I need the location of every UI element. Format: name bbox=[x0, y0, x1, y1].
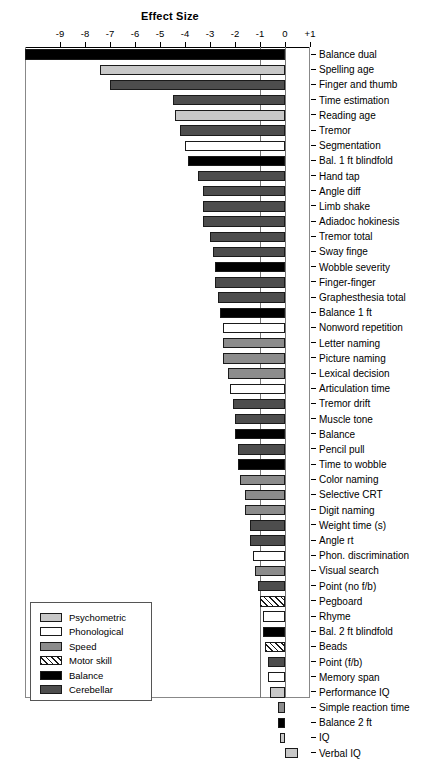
y-tick-mark bbox=[311, 145, 316, 146]
y-axis-label: Graphesthesia total bbox=[319, 290, 406, 305]
bar-bal-2-ft-blindfold bbox=[263, 627, 286, 637]
bar-row: Balance bbox=[0, 427, 431, 442]
x-tick-mark-0 bbox=[285, 42, 286, 47]
x-tick-mark--6 bbox=[135, 42, 136, 47]
bar-balance-dual bbox=[25, 49, 285, 59]
bar-hand-tap bbox=[198, 171, 286, 181]
y-axis-label: Balance 1 ft bbox=[319, 305, 372, 320]
y-tick-mark bbox=[311, 160, 316, 161]
bar-pegboard bbox=[260, 596, 285, 606]
y-axis-label: Finger-finger bbox=[319, 275, 376, 290]
bar-row: Segmentation bbox=[0, 138, 431, 153]
bar-balance-2-ft bbox=[278, 718, 286, 728]
legend-label-balance: Balance bbox=[69, 670, 103, 681]
y-tick-mark bbox=[311, 373, 316, 374]
bar-time-to-wobble bbox=[238, 459, 286, 469]
y-axis-label: Balance bbox=[319, 427, 355, 442]
legend-item-balance: Balance bbox=[40, 668, 151, 683]
y-tick-mark bbox=[311, 616, 316, 617]
bar-row: Picture naming bbox=[0, 351, 431, 366]
y-axis-label: Lexical decision bbox=[319, 366, 390, 381]
y-axis-label: Tremor bbox=[319, 123, 351, 138]
y-tick-mark bbox=[311, 266, 316, 267]
y-tick-mark bbox=[311, 707, 316, 708]
x-tick-mark--9 bbox=[60, 42, 61, 47]
y-tick-mark bbox=[311, 691, 316, 692]
bar-row: Sway finge bbox=[0, 244, 431, 259]
bar-row: Finger-finger bbox=[0, 275, 431, 290]
x-tick-mark--1 bbox=[260, 42, 261, 47]
y-axis-label: Nonword repetition bbox=[319, 320, 403, 335]
y-axis-label: Adiadoc hokinesis bbox=[319, 214, 400, 229]
bar-row: Tremor bbox=[0, 123, 431, 138]
bar-row: Balance 2 ft bbox=[0, 715, 431, 730]
y-tick-mark bbox=[311, 585, 316, 586]
x-tick-mark-+1 bbox=[310, 42, 311, 47]
bar-beads bbox=[265, 642, 285, 652]
bar-pencil-pull bbox=[238, 444, 286, 454]
y-axis-label: Digit naming bbox=[319, 503, 375, 518]
y-axis-label: Segmentation bbox=[319, 138, 381, 153]
bar-graphesthesia-total bbox=[218, 292, 286, 302]
bar-wobble-severity bbox=[215, 262, 285, 272]
bar-row: Hand tap bbox=[0, 169, 431, 184]
y-tick-mark bbox=[311, 69, 316, 70]
y-tick-mark bbox=[311, 524, 316, 525]
bar-sway-finge bbox=[213, 247, 286, 257]
y-tick-mark bbox=[311, 99, 316, 100]
x-tick-mark--7 bbox=[110, 42, 111, 47]
bar-segmentation bbox=[185, 141, 285, 151]
y-tick-mark bbox=[311, 540, 316, 541]
y-axis-label: Picture naming bbox=[319, 351, 386, 366]
y-axis-label: Spelling age bbox=[319, 62, 374, 77]
y-axis-label: Balance dual bbox=[319, 47, 377, 62]
bar-color-naming bbox=[240, 475, 285, 485]
y-tick-mark bbox=[311, 205, 316, 206]
legend-label-motor: Motor skill bbox=[69, 655, 112, 666]
bar-finger-and-thumb bbox=[110, 80, 285, 90]
bar-row: Muscle tone bbox=[0, 412, 431, 427]
y-tick-mark bbox=[311, 388, 316, 389]
x-tick-label--9: -9 bbox=[56, 28, 64, 39]
bar-row: Limb shake bbox=[0, 199, 431, 214]
y-axis-label: Memory span bbox=[319, 670, 380, 685]
bar-row: Graphesthesia total bbox=[0, 290, 431, 305]
y-axis-label: Muscle tone bbox=[319, 412, 373, 427]
y-tick-mark bbox=[311, 737, 316, 738]
y-tick-mark bbox=[311, 676, 316, 677]
bar-row: Weight time (s) bbox=[0, 518, 431, 533]
y-axis-label: Finger and thumb bbox=[319, 77, 397, 92]
y-axis-label: Angle diff bbox=[319, 184, 361, 199]
y-tick-mark bbox=[311, 175, 316, 176]
x-tick-mark--5 bbox=[160, 42, 161, 47]
bar-iq bbox=[280, 733, 285, 743]
bar-lexical-decision bbox=[228, 368, 286, 378]
y-tick-mark bbox=[311, 509, 316, 510]
y-tick-mark bbox=[311, 114, 316, 115]
legend-item-cerebellar: Cerebellar bbox=[40, 683, 151, 698]
y-tick-mark bbox=[311, 752, 316, 753]
y-tick-mark bbox=[311, 84, 316, 85]
legend-item-psychometric: Psychometric bbox=[40, 610, 151, 625]
bar-row: Simple reaction time bbox=[0, 700, 431, 715]
y-tick-mark bbox=[311, 631, 316, 632]
y-axis-label: Simple reaction time bbox=[319, 700, 410, 715]
y-axis-label: Bal. 2 ft blindfold bbox=[319, 624, 393, 639]
x-tick-label--8: -8 bbox=[81, 28, 89, 39]
bar-limb-shake bbox=[203, 201, 286, 211]
legend-label-phonological: Phonological bbox=[69, 626, 123, 637]
bar-row: Lexical decision bbox=[0, 366, 431, 381]
x-tick-mark--3 bbox=[210, 42, 211, 47]
bar-simple-reaction-time bbox=[278, 702, 286, 712]
legend-swatch-cerebellar bbox=[40, 685, 62, 694]
bar-tremor-total bbox=[210, 232, 285, 242]
y-tick-mark bbox=[311, 494, 316, 495]
bar-row: Tremor total bbox=[0, 229, 431, 244]
y-axis-label: Tremor total bbox=[319, 229, 373, 244]
bar-weight-time-s bbox=[250, 520, 285, 530]
bar-spelling-age bbox=[100, 65, 285, 75]
bar-adiadoc-hokinesis bbox=[203, 216, 286, 226]
bar-selective-crt bbox=[245, 490, 285, 500]
x-tick-label-+1: +1 bbox=[305, 28, 316, 39]
